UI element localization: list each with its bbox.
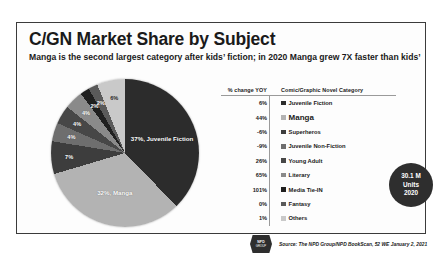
cell-category: Juvenile Fiction xyxy=(273,100,396,106)
npd-logo: NPD GROUP xyxy=(250,235,272,253)
pie-chart: 37%, Juvenile Fiction32%, Manga7%4%4%4%2… xyxy=(41,77,211,229)
legend-swatch-icon xyxy=(281,173,286,178)
callout-year: 2020 xyxy=(404,189,418,198)
pie-slice-label: 32%, Manga xyxy=(97,188,132,195)
table-row: 65%Literary xyxy=(221,168,396,182)
table-row: -9%Juvenile Non-Fiction xyxy=(221,139,396,153)
legend-swatch-icon xyxy=(281,202,286,207)
callout-units: Units xyxy=(403,181,419,190)
pie-slice-label: 4% xyxy=(73,121,81,127)
pie-slice-label: 4% xyxy=(67,134,75,140)
pie-slice-label: 2% xyxy=(97,100,105,106)
cell-category: Superheros xyxy=(273,129,396,135)
column-header-category: Comic/Graphic Novel Category xyxy=(273,87,396,93)
cell-category: Media Tie-IN xyxy=(273,187,396,193)
legend-label: Young Adult xyxy=(289,158,323,164)
category-table: % change YOY Comic/Graphic Novel Categor… xyxy=(221,87,396,226)
table-divider xyxy=(269,96,270,226)
legend-swatch-icon xyxy=(281,144,286,149)
legend-swatch-icon xyxy=(281,158,286,163)
cell-pct-change: 6% xyxy=(221,100,273,106)
cell-pct-change: 101% xyxy=(221,187,273,193)
pie-slice-label: 4% xyxy=(82,110,90,116)
legend-swatch-icon xyxy=(281,216,286,221)
cell-category: Fantasy xyxy=(273,201,396,207)
column-header-pct-change: % change YOY xyxy=(221,87,273,93)
page-title: C/GN Market Share by Subject xyxy=(29,29,275,50)
table-body: 6%Juvenile Fiction44%Manga-6%Superheros-… xyxy=(221,96,396,226)
legend-label: Superheros xyxy=(289,129,321,135)
pie-slice-label: 6% xyxy=(110,95,118,101)
table-header-row: % change YOY Comic/Graphic Novel Categor… xyxy=(221,87,396,96)
cell-pct-change: -6% xyxy=(221,129,273,135)
total-units-callout: 30.1 M Units 2020 xyxy=(389,163,433,207)
legend-label: Literary xyxy=(289,172,310,178)
legend-label: Fantasy xyxy=(289,201,311,207)
legend-label: Others xyxy=(289,215,308,221)
table-row: 1%Others xyxy=(221,211,396,225)
legend-swatch-icon xyxy=(281,101,286,106)
pie-slice-label: 37%, Juvenile Fiction xyxy=(131,134,194,141)
table-row: 44%Manga xyxy=(221,110,396,124)
page-subtitle: Manga is the second largest category aft… xyxy=(29,52,421,63)
source-note: Source: The NPD Group/NPD BookScan, 52 W… xyxy=(279,242,427,247)
table-row: 26%Young Adult xyxy=(221,154,396,168)
cell-pct-change: -9% xyxy=(221,143,273,149)
legend-label: Juvenile Non-Fiction xyxy=(289,143,346,149)
cell-pct-change: 26% xyxy=(221,158,273,164)
legend-swatch-icon xyxy=(281,130,286,135)
cell-pct-change: 1% xyxy=(221,215,273,221)
legend-swatch-icon xyxy=(281,115,286,120)
callout-value: 30.1 M xyxy=(401,172,421,181)
cell-pct-change: 65% xyxy=(221,172,273,178)
cell-category: Young Adult xyxy=(273,158,396,164)
page-top-margin xyxy=(0,0,446,20)
legend-label: Media Tie-IN xyxy=(289,187,323,193)
cell-category: Others xyxy=(273,215,396,221)
table-row: -6%Superheros xyxy=(221,125,396,139)
cell-category: Manga xyxy=(273,113,396,122)
cell-pct-change: 44% xyxy=(221,115,273,121)
table-row: 0%Fantasy xyxy=(221,197,396,211)
legend-label: Juvenile Fiction xyxy=(289,100,333,106)
page-left-margin xyxy=(0,0,7,255)
pie-graphic xyxy=(51,79,199,227)
table-row: 101%Media Tie-IN xyxy=(221,182,396,196)
logo-line-2: GROUP xyxy=(256,244,266,248)
pie-slice-label: 7% xyxy=(65,154,73,160)
cell-category: Literary xyxy=(273,172,396,178)
cell-pct-change: 0% xyxy=(221,201,273,207)
slide-frame: C/GN Market Share by Subject Manga is th… xyxy=(16,22,426,234)
legend-swatch-icon xyxy=(281,187,286,192)
legend-label: Manga xyxy=(289,113,314,122)
cell-category: Juvenile Non-Fiction xyxy=(273,143,396,149)
table-row: 6%Juvenile Fiction xyxy=(221,96,396,110)
